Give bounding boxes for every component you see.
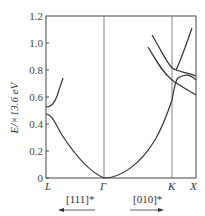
ytick-1.2: 1.2 <box>29 10 43 22</box>
bands <box>46 28 196 178</box>
band-1-left <box>46 114 104 178</box>
ytick-1.0: 1.0 <box>29 37 43 49</box>
plot-frame <box>46 16 196 178</box>
band-structure-diagram: 0 0.2 0.4 0.6 0.8 1.0 1.2 E/×13.6 eV L Γ… <box>0 0 205 216</box>
band-upper-1 <box>152 35 196 76</box>
ytick-0.6: 0.6 <box>29 91 43 103</box>
band-upper-3b <box>176 28 192 70</box>
y-axis-label: E/×13.6 eV <box>8 81 20 134</box>
band-2-left <box>46 78 63 107</box>
ytick-0.4: 0.4 <box>29 118 43 130</box>
ytick-0.8: 0.8 <box>29 64 43 76</box>
arrow-right-icon <box>158 208 164 212</box>
arrow-left-icon <box>58 208 64 212</box>
direction-111: [111]* <box>66 193 95 205</box>
ytick-0: 0 <box>38 172 44 184</box>
point-gamma: Γ <box>99 180 107 192</box>
point-K: K <box>167 180 176 192</box>
band-1-right <box>104 100 172 178</box>
point-X: X <box>189 180 198 192</box>
ytick-0.2: 0.2 <box>29 145 43 157</box>
point-L: L <box>44 180 51 192</box>
direction-010: [010]* <box>133 193 162 205</box>
